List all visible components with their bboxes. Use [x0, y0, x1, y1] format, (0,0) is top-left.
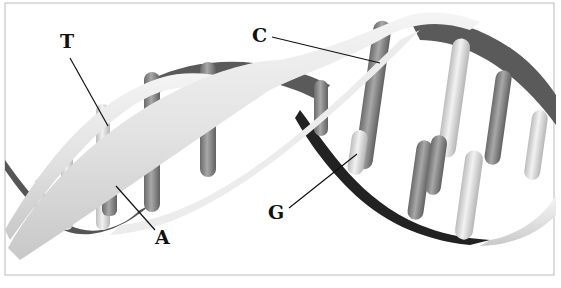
label-T: T: [60, 32, 74, 51]
dna-helix-illustration: [0, 0, 561, 288]
label-C: C: [252, 26, 267, 45]
label-A: A: [155, 228, 170, 247]
dna-diagram: T C G A: [0, 0, 561, 288]
label-G: G: [268, 203, 284, 222]
